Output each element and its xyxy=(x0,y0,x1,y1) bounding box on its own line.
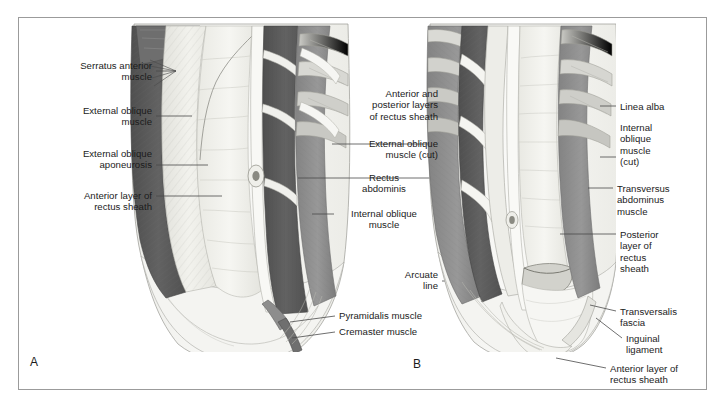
anatomy-figure: Serratus anterior muscle External obliqu… xyxy=(0,0,721,409)
panel-a-illustration xyxy=(131,24,350,365)
label-inguinal-ligament: Inguinal ligament xyxy=(626,333,716,356)
label-external-oblique-aponeurosis: External oblique aponeurosis xyxy=(36,148,152,171)
label-transversus-abdominus-muscle: Transversus abdominus muscle xyxy=(617,183,712,217)
label-external-oblique-muscle-cut: External oblique muscle (cut) xyxy=(330,138,438,161)
label-transversalis-fascia: Transversalis fascia xyxy=(620,306,715,329)
label-anterior-and-posterior-layers-of-rectus-sheath: Anterior and posterior layers of rectus … xyxy=(330,88,438,122)
label-internal-oblique-muscle: Internal oblique muscle xyxy=(330,208,438,231)
panel-label-a: A xyxy=(30,355,38,369)
label-pyramidalis-muscle: Pyramidalis muscle xyxy=(339,310,459,321)
label-linea-alba: Linea alba xyxy=(620,101,710,112)
umbilicus-center-b xyxy=(509,216,515,224)
label-anterior-layer-of-rectus-sheath: Anterior layer of rectus sheath xyxy=(36,190,152,213)
leader-inguinal-ligament xyxy=(596,318,622,338)
label-arcuate-line: Arcuate line xyxy=(363,269,438,292)
label-anterior-layer-of-rectus-sheath-b: Anterior layer of rectus sheath xyxy=(610,363,710,386)
leader-anterior-layer-b xyxy=(556,358,606,368)
label-external-oblique-muscle: External oblique muscle xyxy=(36,105,152,128)
panel-label-b: B xyxy=(413,357,421,371)
label-posterior-layer-of-rectus-sheath: Posterior layer of rectus sheath xyxy=(620,229,710,274)
umbilicus-center-a xyxy=(252,171,259,181)
label-rectus-abdominis: Rectus abdominis xyxy=(330,172,438,195)
label-cremaster-muscle: Cremaster muscle xyxy=(339,326,459,337)
label-internal-oblique-muscle-cut: Internal oblique muscle (cut) xyxy=(620,122,710,167)
label-serratus-anterior-muscle: Serratus anterior muscle xyxy=(36,60,152,83)
